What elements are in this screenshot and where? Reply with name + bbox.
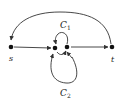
edge-s-to-m1 (14, 47, 51, 48)
label-t: t (111, 55, 115, 64)
edge-loop-c1 (55, 32, 67, 44)
edge-m1-to-m2-short (57, 51, 66, 55)
label-c2: C2 (60, 88, 71, 99)
node-s (9, 45, 14, 50)
node-m1 (53, 46, 58, 51)
edge-loop-c2-head (67, 52, 72, 58)
edge-loop-c2 (51, 54, 77, 83)
node-m2 (65, 45, 70, 50)
graph-diagram: s t C1 C2 (0, 0, 123, 103)
node-t (110, 45, 115, 50)
label-s: s (9, 54, 13, 63)
label-c1: C1 (60, 20, 71, 31)
